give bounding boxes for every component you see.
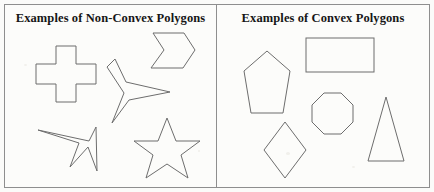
panel-non-convex: Examples of Non-Convex Polygons xyxy=(4,4,216,188)
polygon-examples-figure: Examples of Non-Convex Polygons Examples… xyxy=(0,0,434,192)
scan-speck xyxy=(198,150,200,152)
scan-speck xyxy=(24,64,27,66)
panel-non-convex-title: Examples of Non-Convex Polygons xyxy=(5,11,216,26)
scan-speck xyxy=(352,166,355,168)
panel-convex: Examples of Convex Polygons xyxy=(216,4,430,188)
scan-speck xyxy=(286,152,290,155)
panel-convex-title: Examples of Convex Polygons xyxy=(217,11,429,26)
